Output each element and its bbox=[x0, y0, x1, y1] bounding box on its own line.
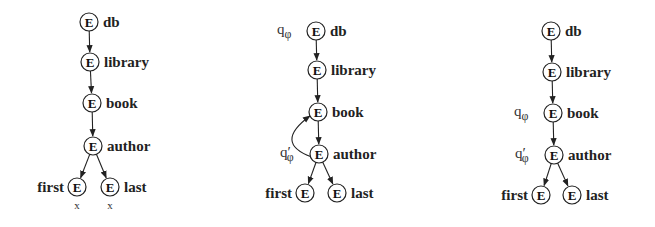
node-label: author bbox=[107, 138, 151, 154]
tree-original: EdbElibraryEbookEauthorEfirstxElastx bbox=[37, 13, 150, 211]
node-book: Ebook bbox=[83, 94, 138, 112]
edge-author-to-last bbox=[558, 163, 568, 186]
node-symbol: E bbox=[315, 147, 324, 162]
node-library: Elibrary bbox=[81, 53, 149, 71]
node-symbol: E bbox=[106, 180, 115, 195]
node-symbol: E bbox=[547, 24, 556, 39]
node-last: Elast bbox=[563, 186, 609, 204]
node-db: Edb bbox=[542, 22, 582, 40]
node-label: book bbox=[567, 105, 599, 121]
node-label: library bbox=[104, 54, 149, 70]
node-label: db bbox=[103, 14, 120, 30]
node-label: library bbox=[331, 62, 376, 78]
node-db: Edb bbox=[80, 13, 120, 31]
node-symbol: E bbox=[88, 96, 97, 111]
node-mark: x bbox=[74, 199, 80, 211]
node-label: last bbox=[351, 185, 374, 201]
node-symbol: E bbox=[568, 188, 577, 203]
node-label: library bbox=[566, 64, 611, 80]
node-label: author bbox=[333, 146, 377, 162]
node-symbol: E bbox=[301, 186, 310, 201]
state-q-phi-prime: q′φ bbox=[515, 145, 529, 165]
state-q-phi-prime: q′φ bbox=[280, 144, 294, 164]
node-label: first bbox=[37, 179, 64, 195]
edge-library-to-book bbox=[552, 81, 553, 103]
node-book: Ebook bbox=[309, 103, 364, 121]
node-symbol: E bbox=[73, 180, 82, 195]
node-symbol: E bbox=[85, 15, 94, 30]
node-library: Elibrary bbox=[543, 63, 611, 81]
node-symbol: E bbox=[89, 139, 98, 154]
node-symbol: E bbox=[313, 63, 322, 78]
diagram-canvas: EdbElibraryEbookEauthorEfirstxElastx Edb… bbox=[0, 0, 655, 227]
node-label: first bbox=[265, 185, 292, 201]
node-label: last bbox=[124, 179, 147, 195]
edge-author-to-first bbox=[81, 154, 90, 177]
node-first: Efirst bbox=[501, 186, 550, 204]
node-author: Eauthor bbox=[545, 146, 612, 164]
back-edge-author-to-book bbox=[292, 116, 312, 157]
node-first: Efirstx bbox=[37, 178, 86, 211]
edge-library-to-book bbox=[317, 79, 318, 102]
node-label: book bbox=[332, 104, 364, 120]
node-first: Efirst bbox=[265, 184, 314, 202]
node-symbol: E bbox=[333, 186, 342, 201]
state-q-phi: qφ bbox=[277, 21, 292, 41]
node-symbol: E bbox=[548, 65, 557, 80]
node-label: db bbox=[330, 23, 347, 39]
node-symbol: E bbox=[86, 55, 95, 70]
node-mark: x bbox=[107, 199, 113, 211]
edge-author-to-last bbox=[323, 162, 333, 184]
node-label: book bbox=[106, 95, 138, 111]
tree-state-at-book: EdbElibraryEbookEauthorEfirstElastqφq′φ bbox=[501, 22, 611, 204]
edge-book-to-author bbox=[553, 122, 554, 145]
node-last: Elast bbox=[328, 184, 374, 202]
edge-db-to-library bbox=[316, 40, 317, 60]
node-author: Eauthor bbox=[310, 145, 377, 163]
state-q-phi: qφ bbox=[514, 103, 529, 123]
node-db: Edb bbox=[307, 22, 347, 40]
tree-state-at-root: EdbElibraryEbookEauthorEfirstElastqφq′φ bbox=[265, 21, 376, 202]
node-library: Elibrary bbox=[308, 61, 376, 79]
edge-book-to-author bbox=[318, 121, 319, 144]
edge-author-to-first bbox=[544, 164, 551, 186]
node-last: Elastx bbox=[101, 178, 147, 211]
node-label: last bbox=[586, 187, 609, 203]
edge-library-to-book bbox=[90, 71, 91, 93]
edge-db-to-library bbox=[89, 31, 90, 52]
node-symbol: E bbox=[537, 188, 546, 203]
node-author: Eauthor bbox=[84, 137, 151, 155]
node-book: Ebook bbox=[544, 104, 599, 122]
edge-db-to-library bbox=[551, 40, 552, 62]
node-symbol: E bbox=[312, 24, 321, 39]
node-symbol: E bbox=[549, 106, 558, 121]
node-label: author bbox=[568, 147, 612, 163]
edge-book-to-author bbox=[92, 112, 93, 136]
edge-author-to-last bbox=[96, 154, 106, 177]
edge-author-to-first bbox=[308, 162, 316, 183]
node-label: db bbox=[565, 23, 582, 39]
node-symbol: E bbox=[550, 148, 559, 163]
node-symbol: E bbox=[314, 105, 323, 120]
node-label: first bbox=[501, 187, 528, 203]
